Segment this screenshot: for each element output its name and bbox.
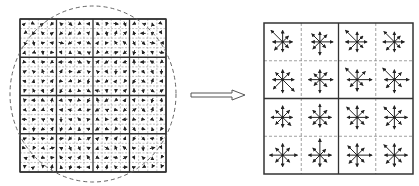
gradient-arrow-icon	[33, 52, 35, 53]
gradient-arrow-icon	[96, 119, 99, 120]
gradient-arrow-icon	[60, 81, 63, 82]
gradient-arrow-icon	[105, 99, 109, 102]
gradient-arrow-icon	[134, 99, 135, 102]
gradient-arrow-icon	[151, 90, 155, 92]
gradient-arrow-icon	[133, 31, 134, 35]
gradient-arrow-icon	[114, 157, 118, 158]
gradient-arrow-icon	[23, 138, 26, 139]
gradient-arrow-icon	[50, 119, 53, 121]
orientation-histogram-icon	[312, 32, 333, 55]
gradient-arrow-icon	[33, 80, 34, 83]
sift-diagram	[0, 0, 419, 186]
gradient-arrow-icon	[78, 80, 80, 83]
gradient-arrow-icon	[77, 61, 81, 63]
histogram-center-dot	[319, 154, 321, 156]
gradient-arrow-icon	[161, 157, 162, 158]
histogram-bin-arrow	[313, 42, 320, 49]
gradient-arrow-icon	[142, 157, 144, 159]
gradient-arrow-icon	[106, 22, 107, 25]
histogram-bin-arrow	[313, 148, 320, 155]
orientation-histogram-icon	[270, 144, 298, 167]
histogram-bin-arrow	[283, 36, 289, 42]
histogram-bin-arrow	[394, 42, 400, 48]
histogram-bin-arrow	[276, 155, 283, 162]
histogram-center-dot	[281, 41, 283, 43]
histogram-bin-arrow	[320, 80, 327, 87]
histogram-center-dot	[356, 78, 358, 80]
gradient-arrow-icon	[95, 90, 100, 91]
histogram-bin-arrow	[394, 155, 401, 162]
gradient-arrow-icon	[41, 42, 44, 43]
histogram-bin-arrow	[349, 155, 357, 163]
gradient-arrow-icon	[68, 109, 72, 110]
gradient-arrow-icon	[42, 24, 43, 25]
gradient-arrow-icon	[123, 32, 126, 35]
histogram-bin-arrow	[350, 117, 357, 124]
gradient-arrow-icon	[97, 71, 99, 73]
histogram-bin-arrow	[384, 145, 394, 155]
orientation-histogram-icon	[271, 30, 292, 51]
gradient-arrow-icon	[115, 99, 117, 101]
gradient-arrow-icon	[68, 32, 71, 35]
gradient-arrow-icon	[24, 89, 25, 92]
gradient-arrow-icon	[96, 109, 100, 112]
gradient-arrow-icon	[105, 147, 109, 149]
histogram-bin-arrow	[313, 110, 320, 117]
gradient-arrow-icon	[78, 109, 80, 110]
gradient-arrow-icon	[51, 80, 53, 83]
gradient-arrow-icon	[150, 138, 154, 139]
gradient-arrow-icon	[96, 138, 98, 140]
gradient-arrow-icon	[33, 89, 34, 92]
histogram-bin-arrow	[357, 80, 363, 86]
gradient-arrow-icon	[60, 127, 61, 131]
histogram-bin-arrow	[320, 110, 327, 117]
histogram-bin-arrow	[394, 148, 401, 155]
gradient-arrow-icon	[87, 156, 90, 160]
gradient-arrow-icon	[69, 100, 72, 101]
gradient-arrow-icon	[106, 70, 108, 73]
gradient-arrow-icon	[52, 98, 53, 102]
histogram-bin-arrow	[320, 149, 326, 155]
histogram-center-dot	[393, 41, 395, 43]
gradient-arrow-icon	[142, 119, 145, 120]
gradient-arrow-icon	[41, 128, 44, 130]
histogram-bin-arrow	[283, 155, 290, 162]
gradient-arrow-icon	[59, 100, 63, 101]
histogram-bin-arrow	[283, 110, 290, 117]
gradient-arrow-icon	[142, 70, 145, 73]
gradient-arrow-icon	[60, 156, 62, 159]
gradient-arrow-icon	[106, 165, 107, 169]
gradient-arrow-icon	[60, 23, 62, 25]
histogram-bin-arrow	[283, 117, 291, 125]
histogram-bin-arrow	[271, 30, 283, 42]
histogram-bin-arrow	[386, 155, 394, 163]
gradient-arrow-icon	[88, 32, 89, 35]
gradient-arrow-icon	[41, 148, 44, 149]
gradient-arrow-icon	[68, 42, 72, 45]
gradient-arrow-icon	[114, 23, 119, 24]
gradient-arrow-icon	[23, 128, 26, 129]
histogram-bin-arrow	[313, 155, 320, 162]
histogram-bin-arrow	[357, 36, 363, 42]
histogram-bin-arrow	[312, 34, 320, 42]
histogram-bin-arrow	[394, 73, 401, 80]
gradient-arrow-icon	[114, 109, 117, 110]
histogram-bin-arrow	[347, 107, 357, 117]
histogram-bin-arrow	[320, 73, 327, 80]
descriptor-histogram-panel	[264, 23, 413, 174]
gradient-arrow-icon	[160, 90, 163, 92]
histogram-bin-arrow	[273, 80, 282, 89]
gradient-arrow-icon	[161, 128, 163, 131]
gradient-arrow-icon	[151, 70, 153, 74]
gradient-arrow-icon	[160, 61, 162, 63]
gradient-arrow-icon	[161, 33, 162, 34]
histogram-center-dot	[281, 154, 283, 156]
gradient-arrow-icon	[143, 89, 144, 93]
gradient-arrow-icon	[125, 127, 126, 131]
gradient-arrow-icon	[33, 147, 34, 149]
histogram-bin-arrow	[357, 42, 363, 48]
gradient-arrow-icon	[69, 128, 72, 130]
histogram-center-dot	[356, 116, 358, 118]
gradient-arrow-icon	[87, 128, 90, 129]
gradient-arrow-icon	[23, 62, 25, 63]
